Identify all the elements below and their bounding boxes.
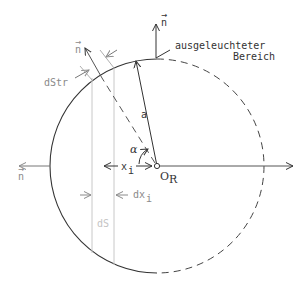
- label-ds: dS: [97, 218, 109, 229]
- label-alpha: α: [130, 143, 138, 156]
- label-illuminated-line2: Bereich: [233, 51, 275, 62]
- label-dstr: dStr: [44, 77, 68, 88]
- vector-bar-upper-left: →: [75, 36, 81, 47]
- label-origin-sub: R: [169, 173, 178, 186]
- label-origin: O: [160, 170, 169, 183]
- label-dxi: dx: [133, 189, 145, 200]
- illuminated-pointer: [156, 50, 170, 58]
- vector-bar-top: →: [161, 9, 167, 20]
- label-dxi-sub: i: [146, 193, 152, 204]
- dstr-guide-left: [80, 66, 92, 80]
- label-radius: a: [141, 109, 147, 120]
- alpha-arc: [139, 149, 148, 164]
- origin-point: [154, 163, 159, 168]
- label-xi-sub: i: [128, 165, 134, 176]
- diagram-canvas: n → n → n → ausgeleuchteter Bereich dStr…: [0, 0, 308, 290]
- label-xi: x: [121, 161, 127, 172]
- dstr-arrow-right: [106, 50, 117, 57]
- label-illuminated-line1: ausgeleuchteter: [175, 40, 265, 51]
- normal-dashed-line: [102, 78, 155, 163]
- vector-bar-left: →: [18, 163, 24, 174]
- normal-vector-upper-left: [85, 48, 102, 78]
